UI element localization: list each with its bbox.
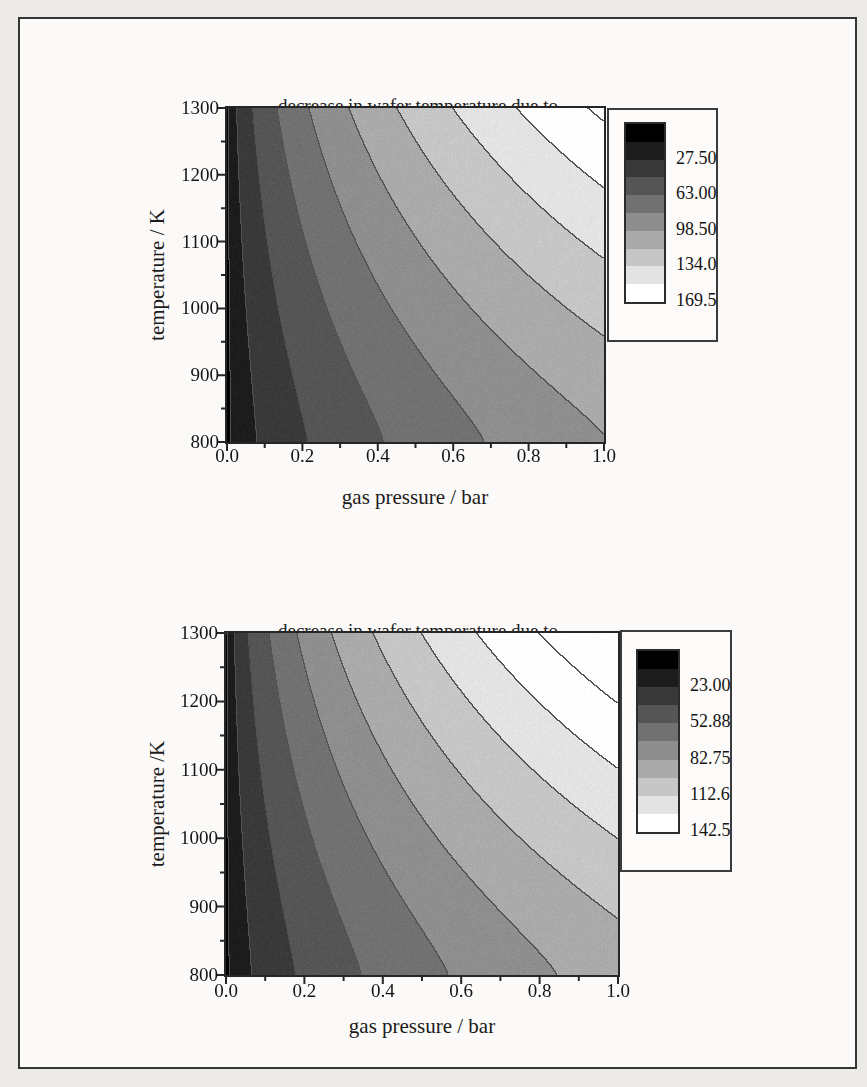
colorbar-band — [638, 687, 678, 705]
nitrogen-colorbar — [624, 122, 666, 304]
nitrogen-y-tick-label: 1200 — [159, 164, 219, 186]
nitrogen-legend-label: 134.0 — [676, 254, 717, 274]
colorbar-band — [626, 249, 664, 267]
colorbar-band — [638, 741, 678, 759]
colorbar-band — [638, 705, 678, 723]
nitrogen-x-tick-label: 1.0 — [580, 445, 628, 467]
argon-legend-label: 52.88 — [690, 711, 731, 731]
argon-x-tick-label: 0.8 — [516, 980, 564, 1002]
argon-y-tick-label: 800 — [158, 964, 218, 986]
colorbar-band — [626, 142, 664, 160]
argon-y-tick-label: 1100 — [158, 759, 218, 781]
nitrogen-x-tick-label: 0.2 — [278, 445, 326, 467]
colorbar-band — [638, 723, 678, 741]
nitrogen-colorbar-legend: 27.5063.0098.50134.0169.5 — [607, 108, 718, 342]
nitrogen-legend-label: 27.50 — [676, 148, 717, 168]
colorbar-band — [638, 669, 678, 687]
nitrogen-x-tick-label: 0.6 — [429, 445, 477, 467]
colorbar-band — [638, 778, 678, 796]
argon-legend-label: 142.5 — [690, 820, 731, 840]
colorbar-band — [638, 814, 678, 832]
argon-x-tick-label: 0.2 — [280, 980, 328, 1002]
argon-x-tick-label: 0.6 — [437, 980, 485, 1002]
colorbar-band — [626, 160, 664, 178]
argon-x-tick-label: 1.0 — [594, 980, 642, 1002]
nitrogen-y-tick-label: 800 — [159, 431, 219, 453]
nitrogen-y-tick-label: 900 — [159, 364, 219, 386]
colorbar-band — [638, 651, 678, 669]
colorbar-band — [626, 284, 664, 302]
nitrogen-y-tick-label: 1300 — [159, 97, 219, 119]
argon-x-axis-label: gas pressure / bar — [262, 1013, 582, 1039]
argon-y-tick-label: 1000 — [158, 827, 218, 849]
argon-y-tick-label: 900 — [158, 896, 218, 918]
argon-y-tick-label: 1300 — [158, 622, 218, 644]
scanned-book-page: { "page": { "background": "#eceae7", "pa… — [0, 0, 867, 1087]
nitrogen-x-tick-label: 0.8 — [505, 445, 553, 467]
argon-y-tick-label: 1200 — [158, 690, 218, 712]
nitrogen-x-axis-label: gas pressure / bar — [255, 484, 575, 510]
colorbar-band — [626, 195, 664, 213]
nitrogen-legend-label: 63.00 — [676, 183, 717, 203]
nitrogen-legend-label: 98.50 — [676, 219, 717, 239]
colorbar-band — [626, 177, 664, 195]
argon-colorbar — [636, 649, 680, 834]
colorbar-band — [638, 760, 678, 778]
colorbar-band — [626, 231, 664, 249]
argon-legend-label: 82.75 — [690, 748, 731, 768]
colorbar-band — [626, 124, 664, 142]
argon-contour-plot — [214, 621, 630, 987]
nitrogen-x-tick-label: 0.4 — [354, 445, 402, 467]
nitrogen-legend-label: 169.5 — [676, 290, 717, 310]
nitrogen-y-tick-label: 1000 — [159, 297, 219, 319]
argon-legend-label: 112.6 — [690, 784, 730, 804]
argon-x-tick-label: 0.4 — [359, 980, 407, 1002]
colorbar-band — [626, 266, 664, 284]
colorbar-band — [626, 213, 664, 231]
colorbar-band — [638, 796, 678, 814]
nitrogen-contour-plot — [215, 96, 616, 454]
argon-colorbar-legend: 23.0052.8882.75112.6142.5 — [620, 630, 732, 872]
nitrogen-y-tick-label: 1100 — [159, 231, 219, 253]
argon-legend-label: 23.00 — [690, 675, 731, 695]
